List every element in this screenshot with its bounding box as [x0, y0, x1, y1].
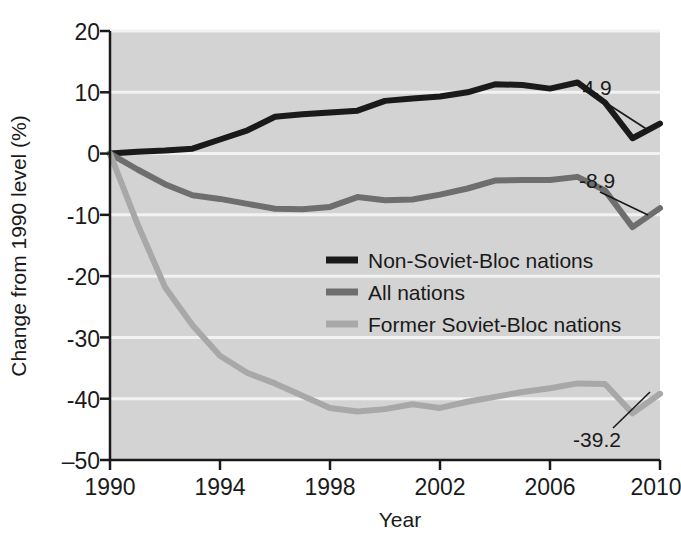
x-tick-label-1994: 1994 — [194, 474, 245, 500]
legend-label-former-soviet-bloc: Former Soviet-Bloc nations — [368, 313, 621, 336]
plot-area-background — [110, 31, 660, 460]
y-tick-label-10: 10 — [74, 80, 100, 106]
legend-label-non-soviet-bloc: Non-Soviet-Bloc nations — [368, 249, 593, 272]
line-chart: 20 10 0 -10 -20 -30 -40 –50 1990 1994 19… — [0, 0, 681, 539]
y-tick-label-neg40: -40 — [67, 387, 100, 413]
y-tick-label-0: 0 — [87, 141, 100, 167]
y-tick-label-neg10: -10 — [67, 203, 100, 229]
y-tick-label-neg30: -30 — [67, 326, 100, 352]
x-tick-label-2010: 2010 — [630, 474, 681, 500]
x-tick-label-1998: 1998 — [304, 474, 355, 500]
annotation-black-end: 4.9 — [582, 76, 611, 99]
y-axis-title: Change from 1990 level (%) — [7, 115, 30, 376]
x-axis-title: Year — [379, 508, 421, 531]
chart-figure: 20 10 0 -10 -20 -30 -40 –50 1990 1994 19… — [0, 0, 681, 539]
y-tick-label-neg20: -20 — [67, 264, 100, 290]
x-tick-label-2006: 2006 — [524, 474, 575, 500]
y-tick-label-20: 20 — [74, 19, 100, 45]
x-tick-label-1990: 1990 — [84, 474, 135, 500]
annotation-light-end: -39.2 — [573, 428, 621, 451]
y-tick-label-neg50: –50 — [62, 448, 100, 474]
legend-label-all-nations: All nations — [368, 281, 465, 304]
x-tick-label-2002: 2002 — [414, 474, 465, 500]
annotation-grey-end: -8.9 — [579, 169, 615, 192]
